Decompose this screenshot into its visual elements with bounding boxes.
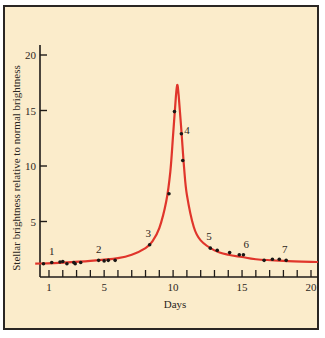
- data-point: [61, 260, 65, 264]
- data-point: [73, 262, 77, 266]
- x-tick-label: 1: [46, 281, 52, 293]
- data-point: [50, 261, 54, 265]
- data-point: [242, 253, 246, 257]
- light-curve-line: [35, 85, 318, 264]
- data-point: [284, 259, 288, 263]
- data-point: [42, 262, 46, 266]
- data-point: [113, 259, 117, 263]
- data-point: [228, 251, 232, 255]
- point-label: 3: [146, 227, 152, 239]
- point-label: 2: [96, 243, 102, 255]
- point-label: 7: [282, 243, 288, 255]
- data-point: [181, 159, 185, 163]
- data-point: [106, 259, 110, 263]
- x-axis-title: Days: [164, 298, 187, 310]
- data-point: [237, 253, 241, 257]
- data-point: [180, 132, 184, 136]
- data-point: [102, 259, 106, 263]
- y-axis-title: Stellar brightness relative to normal br…: [10, 65, 22, 271]
- data-point: [215, 249, 219, 253]
- data-points: [42, 110, 288, 266]
- x-tick-label: 15: [237, 281, 249, 293]
- y-tick-label: 5: [31, 216, 37, 228]
- point-label: 1: [49, 245, 55, 257]
- data-point: [271, 257, 275, 261]
- y-tick-label: 20: [25, 49, 37, 61]
- x-tick-label: 5: [101, 281, 107, 293]
- data-point: [173, 110, 177, 114]
- data-point: [209, 246, 213, 250]
- light-curve-chart: 510152015101520 1234567 Days Stellar bri…: [0, 0, 325, 338]
- y-tick-label: 10: [25, 160, 37, 172]
- light-curve-path: [35, 85, 318, 264]
- data-point: [148, 243, 152, 247]
- data-point: [97, 259, 101, 263]
- y-tick-label: 15: [25, 105, 37, 117]
- point-label: 6: [243, 238, 249, 250]
- point-label: 5: [206, 230, 212, 242]
- data-point: [167, 192, 171, 196]
- data-point: [277, 257, 281, 261]
- x-tick-label: 20: [306, 281, 318, 293]
- point-label: 4: [184, 124, 190, 136]
- data-point: [262, 259, 266, 263]
- data-point: [65, 262, 69, 266]
- data-point: [79, 261, 83, 265]
- x-tick-label: 10: [168, 281, 180, 293]
